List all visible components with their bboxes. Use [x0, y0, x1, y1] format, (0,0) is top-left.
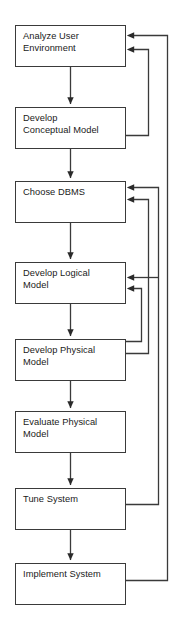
flowchart-connectors — [0, 0, 181, 624]
node-tune-system[interactable]: Tune System — [15, 488, 126, 530]
node-develop-physical-model[interactable]: Develop Physical Model — [15, 339, 126, 381]
feedback-implement-to-analyze — [126, 36, 168, 581]
node-develop-logical-model[interactable]: Develop Logical Model — [15, 262, 126, 304]
flowchart-diagram: Analyze User Environment Develop Concept… — [0, 0, 181, 624]
node-develop-conceptual-model[interactable]: Develop Conceptual Model — [15, 107, 126, 149]
node-implement-system[interactable]: Implement System — [15, 563, 126, 605]
node-evaluate-physical-model[interactable]: Evaluate Physical Model — [15, 411, 126, 453]
feedback-physical-to-logical — [126, 289, 142, 342]
feedback-tune-to-dbms — [126, 188, 159, 505]
node-choose-dbms[interactable]: Choose DBMS — [15, 181, 126, 223]
feedback-physical-to-dbms — [126, 200, 149, 354]
feedback-conceptual-to-analyze — [126, 50, 149, 136]
node-analyze-user-environment[interactable]: Analyze User Environment — [15, 25, 126, 67]
